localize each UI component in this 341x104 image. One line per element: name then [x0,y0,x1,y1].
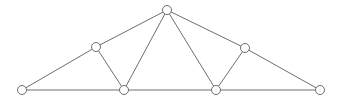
apex-node [163,6,172,15]
truss-diagram [0,0,341,104]
left-support-node [18,86,27,95]
right-support-node [316,86,325,95]
right-bottom-panel-node [212,86,221,95]
right-upper-chord-node [241,44,250,53]
left-bottom-panel-node [120,86,129,95]
left-upper-chord-node [92,43,101,52]
